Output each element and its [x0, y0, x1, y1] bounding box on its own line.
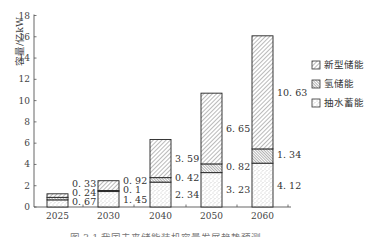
x-tick-label: 2050: [200, 211, 223, 221]
bar-segment-hatch: [150, 139, 171, 177]
y-tick-label: 8: [24, 117, 30, 127]
x-tick-label: 2040: [149, 211, 172, 221]
x-tick-label: 2030: [97, 211, 120, 221]
bar-segment-hatch: [252, 36, 273, 149]
y-tick-label: 12: [19, 74, 30, 84]
legend-label: 新型储能: [324, 59, 364, 70]
value-label: 1. 45: [123, 194, 147, 205]
value-label: 10. 63: [277, 87, 307, 98]
bar-segment-dots: [252, 163, 273, 207]
legend-label: 抽水蓄能: [324, 97, 364, 108]
value-label: 0. 33: [72, 178, 96, 189]
value-label: 2. 34: [175, 189, 199, 200]
y-tick-label: 10: [19, 96, 31, 106]
legend-item: 氢储能: [312, 78, 354, 89]
bar-segment-dense-hatch: [252, 149, 273, 163]
value-label: 1. 34: [277, 149, 301, 160]
bar-segment-dense-hatch: [150, 178, 171, 182]
bar-segment-dots: [98, 192, 119, 207]
bar-group-2030: 1. 450. 10. 922030: [97, 175, 147, 221]
legend-item: 新型储能: [312, 59, 364, 70]
x-tick-label: 2025: [46, 211, 69, 221]
legend-swatch: [312, 61, 320, 69]
bar-segment-dots: [47, 200, 68, 207]
legend-swatch: [312, 99, 320, 107]
bar-segment-hatch: [201, 93, 222, 164]
legend-item: 抽水蓄能: [312, 97, 364, 108]
value-label: 6. 65: [226, 123, 250, 134]
value-label: 0. 24: [72, 187, 96, 198]
y-tick-label: 14: [19, 53, 31, 63]
bar-segment-hatch: [98, 181, 119, 191]
bar-segment-dots: [150, 182, 171, 207]
figure-caption: 图 3-1 我国未来储能装机容量发展趋势预测: [70, 232, 261, 237]
bar-group-2050: 3. 230. 826. 652050: [200, 93, 250, 221]
legend-swatch: [312, 80, 320, 88]
bar-segment-dense-hatch: [201, 164, 222, 173]
value-label: 3. 23: [226, 184, 250, 195]
y-tick-label: 18: [19, 11, 31, 21]
y-tick-label: 2: [24, 181, 30, 191]
stacked-bar-chart: 容量/亿kW 024681012141618 0. 670. 240. 3320…: [0, 0, 373, 237]
legend-label: 氢储能: [324, 78, 354, 89]
y-tick-label: 6: [24, 138, 30, 148]
y-tick-label: 16: [19, 32, 31, 42]
bar-segment-hatch: [47, 194, 68, 198]
y-tick-label: 4: [24, 159, 30, 169]
x-tick-label: 2060: [251, 211, 274, 221]
value-label: 3. 59: [175, 153, 199, 164]
bar-group-2060: 4. 121. 3410. 632060: [251, 36, 307, 221]
value-label: 0. 42: [175, 172, 199, 183]
value-label: 0. 92: [123, 175, 147, 186]
y-tick-label: 0: [24, 202, 30, 212]
value-label: 4. 12: [277, 180, 301, 191]
bars: 0. 670. 240. 3320251. 450. 10. 9220302. …: [46, 36, 307, 221]
bar-group-2040: 2. 340. 423. 592040: [149, 139, 199, 221]
bar-group-2025: 0. 670. 240. 332025: [46, 178, 96, 222]
value-label: 0. 82: [226, 161, 250, 172]
legend: 新型储能氢储能抽水蓄能: [312, 59, 364, 108]
bar-segment-dots: [201, 173, 222, 207]
